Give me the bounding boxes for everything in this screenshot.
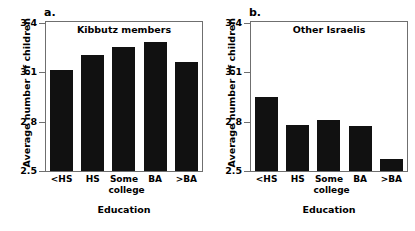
- panel-a-letter: a.: [44, 6, 56, 19]
- panel-a-bar-0[interactable]: [50, 70, 73, 171]
- panel-b-ytick-label-2-5: 2.5: [225, 166, 244, 176]
- panel-a-xtick-1: HS: [77, 174, 108, 195]
- panel-b-letter: b.: [249, 6, 261, 19]
- panel-a-bar-slot-0: [46, 22, 77, 171]
- panel-a-y-axis-ticks: 3.4 3.1 2.8 2.5: [0, 0, 45, 231]
- panel-a: a. Average number of children 3.4 3.1 2.…: [0, 0, 205, 231]
- panel-b-bar-slot-0: [251, 22, 282, 171]
- panel-b-xtick-1-line1: HS: [282, 174, 313, 185]
- panel-b-bar-slot-3: [345, 22, 376, 171]
- panel-a-xtick-3: BA: [140, 174, 171, 195]
- panel-b-bar-slot-4: [376, 22, 407, 171]
- panel-a-bar-3[interactable]: [144, 42, 167, 171]
- panel-a-bar-slot-2: [108, 22, 139, 171]
- panel-b: b. Average number of children 3.4 3.1 2.…: [205, 0, 410, 231]
- panel-a-ytick-label-3-1: 3.1: [20, 67, 39, 77]
- panel-a-ytick-label-3-4: 3.4: [20, 18, 39, 28]
- panel-a-bar-slot-1: [77, 22, 108, 171]
- panel-b-xtick-3-line1: BA: [345, 174, 376, 185]
- panel-a-xtick-1-line1: HS: [77, 174, 108, 185]
- panel-a-ytick-label-2-5: 2.5: [20, 166, 39, 176]
- panel-a-bar-slot-4: [171, 22, 202, 171]
- panel-b-ytick-label-3-1: 3.1: [225, 67, 244, 77]
- panel-b-xtick-4-line1: >BA: [376, 174, 407, 185]
- panel-a-xtick-2: Some college: [108, 174, 139, 195]
- panel-b-x-axis-ticks: <HS HS Some college BA >BA: [251, 174, 407, 195]
- panel-a-xtick-2-line2: college: [108, 185, 139, 196]
- panel-b-ytick-label-2-8: 2.8: [225, 117, 244, 127]
- panel-b-bar-slot-1: [282, 22, 313, 171]
- panel-a-xtick-2-line1: Some: [108, 174, 139, 185]
- panel-a-bar-1[interactable]: [81, 55, 104, 171]
- panel-b-xtick-2: Some college: [313, 174, 344, 195]
- panel-a-xtick-0-line1: <HS: [46, 174, 77, 185]
- panel-a-bars: [46, 22, 202, 171]
- panel-b-bar-3[interactable]: [349, 126, 372, 171]
- panel-b-xtick-0-line1: <HS: [251, 174, 282, 185]
- panel-b-xtick-3: BA: [345, 174, 376, 195]
- panel-a-xtick-4: >BA: [171, 174, 202, 195]
- panel-b-xtick-0: <HS: [251, 174, 282, 195]
- panel-b-x-axis-title: Education: [250, 204, 408, 215]
- panel-b-bar-1[interactable]: [286, 125, 309, 171]
- panel-b-bars: [251, 22, 407, 171]
- panel-a-ytick-label-2-8: 2.8: [20, 117, 39, 127]
- figure-two-panel-bar-charts: a. Average number of children 3.4 3.1 2.…: [0, 0, 415, 231]
- panel-b-bar-0[interactable]: [255, 97, 278, 172]
- panel-a-bar-slot-3: [140, 22, 171, 171]
- panel-b-xtick-4: >BA: [376, 174, 407, 195]
- panel-b-bar-2[interactable]: [317, 120, 340, 171]
- panel-b-y-axis-ticks: 3.4 3.1 2.8 2.5: [205, 0, 250, 231]
- panel-a-bar-4[interactable]: [175, 62, 198, 171]
- panel-b-xtick-2-line1: Some: [313, 174, 344, 185]
- panel-a-xtick-4-line1: >BA: [171, 174, 202, 185]
- panel-b-xtick-1: HS: [282, 174, 313, 195]
- panel-b-ytick-label-3-4: 3.4: [225, 18, 244, 28]
- panel-a-x-axis-ticks: <HS HS Some college BA >BA: [46, 174, 202, 195]
- panel-a-x-axis-title: Education: [45, 204, 203, 215]
- panel-b-bar-slot-2: [313, 22, 344, 171]
- panel-b-bar-4[interactable]: [380, 159, 403, 171]
- panel-b-xtick-2-line2: college: [313, 185, 344, 196]
- panel-a-bar-2[interactable]: [112, 47, 135, 171]
- panel-a-xtick-3-line1: BA: [140, 174, 171, 185]
- panel-a-xtick-0: <HS: [46, 174, 77, 195]
